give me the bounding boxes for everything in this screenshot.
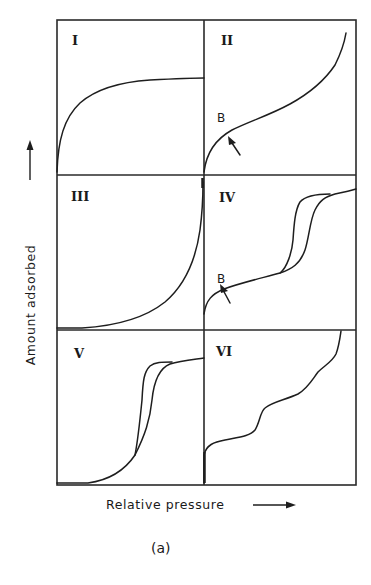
panel-type-iii: III	[57, 178, 203, 328]
y-axis-arrow-up-icon	[27, 140, 34, 150]
panel-label-v: V	[73, 346, 85, 361]
panel-label-ii: II	[221, 33, 233, 48]
panel-type-ii: II B	[204, 33, 346, 172]
panel-label-i: I	[72, 33, 78, 48]
figure-caption: (a)	[151, 540, 171, 556]
arrow-pointing-to-b-ii	[228, 136, 240, 155]
isotherm-curve-i	[57, 78, 204, 172]
y-axis-label-group: Amount adsorbed	[23, 140, 38, 365]
point-b-label-ii: B	[217, 111, 225, 125]
x-axis-label-group: Relative pressure	[106, 497, 296, 512]
x-axis-label: Relative pressure	[106, 497, 225, 512]
panel-type-vi: VI	[204, 331, 341, 483]
panel-type-v: V	[57, 346, 204, 483]
panel-type-iv: IV B	[204, 189, 356, 314]
isotherm-curve-ii	[204, 33, 346, 172]
isotherm-adsorption-branch-iv	[204, 189, 356, 314]
panel-label-iii: III	[71, 189, 89, 204]
isotherm-adsorption-branch-v	[57, 358, 204, 483]
isotherm-desorption-branch-v	[135, 362, 172, 455]
isotherm-desorption-branch-iv	[280, 194, 330, 273]
adsorption-isotherms-figure: I II B III IV B V VI	[0, 0, 371, 585]
point-b-label-iv: B	[217, 272, 225, 286]
panel-label-iv: IV	[219, 190, 236, 205]
panel-label-vi: VI	[215, 344, 232, 359]
x-axis-arrow-right-icon	[286, 502, 296, 509]
y-axis-label: Amount adsorbed	[23, 245, 38, 366]
panel-type-i: I	[57, 33, 204, 172]
